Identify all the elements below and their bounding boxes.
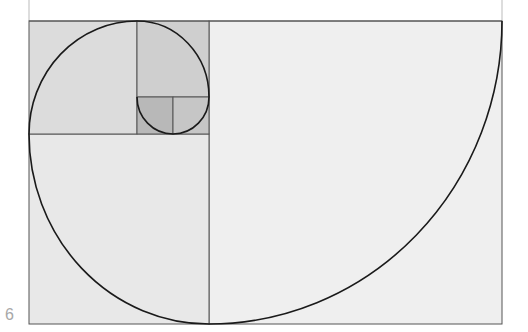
upper-left-square	[29, 21, 137, 134]
golden-spiral-diagram	[0, 0, 528, 332]
large-square	[209, 21, 502, 324]
page-number: 6	[5, 306, 14, 324]
upper-middle-square	[137, 21, 209, 97]
bottom-left-square	[29, 134, 209, 324]
